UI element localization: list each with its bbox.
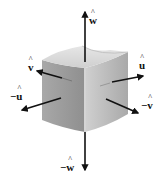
label-v-pos-symbol: v [28,62,34,73]
label-u-neg-symbol: u [16,91,22,102]
label-w-pos: w [89,15,97,26]
label-w-neg-symbol: w [66,162,74,173]
label-v-neg-symbol: v [147,100,153,111]
label-u-pos-symbol: u [139,60,145,71]
label-w-neg: −w [60,162,74,173]
volume-element-diagram [0,0,168,181]
block-left-face [42,60,85,132]
label-v-pos: v [28,62,34,73]
label-w-pos-symbol: w [89,15,97,26]
label-u-neg: −u [10,91,22,102]
label-u-pos: u [139,60,145,71]
label-v-neg: −v [141,100,153,111]
